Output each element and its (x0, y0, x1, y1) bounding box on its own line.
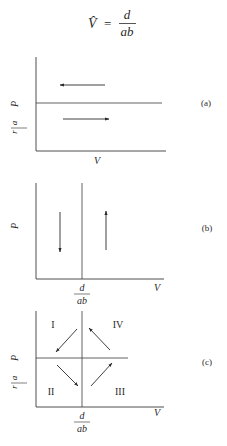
figure-panels: P r a V (a) P d ab V (b) (0, 0, 227, 446)
panel-a-y-label: P (9, 101, 20, 108)
panel-b-x-tick-num: d (80, 282, 86, 293)
panel-a: P r a V (a) (9, 57, 211, 166)
panel-b: P d ab V (b) (9, 183, 212, 306)
panel-c-arrow-I-to-II (56, 329, 77, 352)
panels-svg: P r a V (a) P d ab V (b) (0, 0, 227, 446)
panel-a-label: (a) (201, 98, 211, 108)
panel-c-y-tick: r a (9, 375, 27, 389)
panel-c: I II III IV P r a d ab V (c) (9, 311, 212, 434)
panel-c-x-tick-num: d (80, 410, 86, 421)
panel-c-y-tick-den: a (9, 375, 19, 380)
quadrant-III-label: III (115, 386, 125, 397)
panel-c-arrow-III-to-IV (91, 363, 112, 386)
panel-c-y-label: P (9, 355, 20, 362)
panel-c-x-label: V (154, 407, 162, 418)
panel-c-arrow-II-to-III (57, 365, 78, 386)
quadrant-IV-label: IV (113, 319, 124, 330)
panel-a-y-tick-num: r (9, 130, 19, 134)
quadrant-I-label: I (51, 319, 54, 330)
panel-c-x-tick-den: ab (77, 423, 87, 434)
panel-b-label: (b) (202, 223, 213, 233)
quadrant-II-label: II (48, 386, 55, 397)
panel-c-arrow-IV-to-I (89, 328, 110, 350)
panel-c-y-tick-num: r (9, 385, 19, 389)
panel-a-x-label: V (94, 155, 102, 166)
panel-b-x-tick-den: ab (77, 295, 87, 306)
panel-a-y-tick: r a (9, 120, 27, 134)
panel-b-y-label: P (9, 223, 20, 230)
panel-a-y-tick-den: a (9, 120, 19, 125)
panel-b-x-label: V (154, 282, 162, 293)
panel-c-label: (c) (202, 357, 212, 367)
